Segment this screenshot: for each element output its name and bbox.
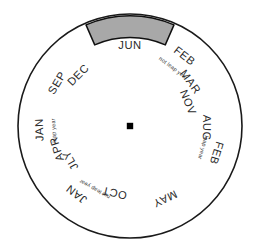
label-jan-5-0: JAN [33,118,46,141]
month-wheel-svg: JUNFEBnot leap yearMARNOVFEBleap yearAUG… [0,0,257,247]
label-jun-0-0: JUN [118,39,142,51]
center-hub-dot [127,123,133,129]
label-aug-2-2: AUG [201,115,214,141]
month-wheel-figure: JUNFEBnot leap yearMARNOVFEBleap yearAUG… [0,0,257,247]
